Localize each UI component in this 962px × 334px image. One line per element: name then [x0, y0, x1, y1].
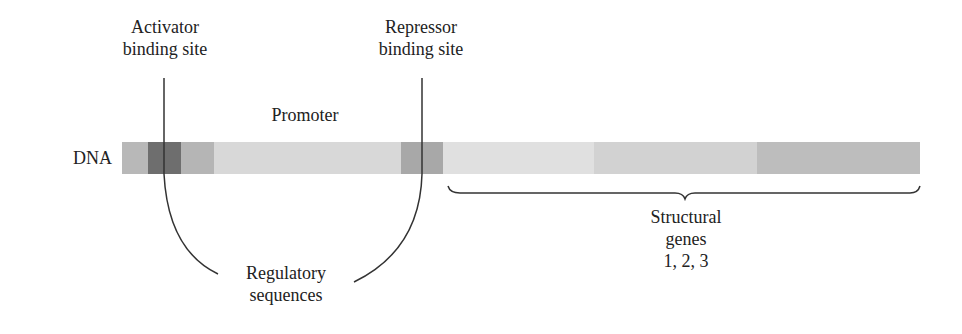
regulatory-arc-left	[164, 174, 218, 274]
structural-genes-brace	[448, 186, 920, 199]
structural-genes-label: Structural genes 1, 2, 3	[626, 206, 746, 272]
regulatory-arc-right	[354, 174, 422, 282]
diagram-lines	[0, 0, 962, 334]
structural-label-line2: genes	[626, 228, 746, 250]
regulatory-sequences-label: Regulatory sequences	[226, 262, 346, 306]
structural-label-line3: 1, 2, 3	[626, 250, 746, 272]
structural-label-line1: Structural	[626, 206, 746, 228]
regulatory-label-line2: sequences	[226, 284, 346, 306]
regulatory-label-line1: Regulatory	[226, 262, 346, 284]
